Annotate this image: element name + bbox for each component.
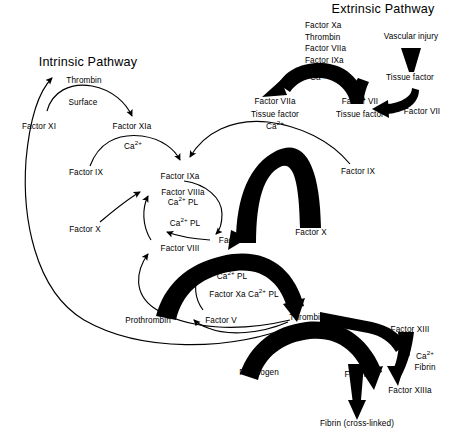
label-calcium-1: Ca2+	[124, 142, 142, 153]
thick-arrow-vascular-injury-to-tissue-factor	[401, 48, 421, 72]
node-tissue-factor-2: Tissue factor	[336, 110, 384, 121]
node-factor-ix-left: Factor IX	[69, 168, 103, 179]
node-vascular-injury: Vascular injury	[384, 32, 439, 43]
node-prothrombin: Prothrombin	[125, 316, 171, 327]
activator-thrombin: Thrombin	[305, 32, 346, 44]
node-factor-viii: Factor VIII	[161, 244, 200, 255]
arrow-factorxa-to-factorviii	[167, 232, 210, 240]
node-factor-x-right: Factor X	[295, 228, 327, 239]
activator-list: Factor Xa Thrombin Factor VIIa Factor IX…	[305, 20, 346, 66]
label-factor-xa-calcium-pl: Factor Xa Ca2+ PL	[209, 290, 278, 301]
node-factor-xa: Factor Xa	[219, 236, 255, 247]
label-calcium-4: Ca2+	[416, 352, 434, 363]
node-thrombin-top: Thrombin	[66, 76, 101, 87]
node-factor-xiiia: Factor XIIIa	[388, 386, 432, 397]
intrinsic-pathway-title: Intrinsic Pathway	[39, 57, 138, 68]
label-calcium-3: Ca2+	[266, 122, 284, 133]
node-factor-xiii: Factor XIII	[391, 325, 430, 336]
label-calcium-2: Ca2+	[310, 73, 328, 84]
node-factor-ixa: Factor IXa	[161, 172, 200, 183]
node-factor-vii-right: Factor VII	[404, 107, 441, 118]
activator-factor-ixa: Factor IXa	[305, 55, 346, 67]
node-fibrinogen: Fibrinogen	[239, 368, 279, 379]
node-tissue-factor-1: Tissue factor	[386, 73, 434, 84]
node-fibrin-crosslinked: Fibrin (cross-linked)	[320, 419, 394, 430]
arrow-factorviii-to-factorviiia	[144, 196, 151, 240]
node-fibrin-cofactor: Fibrin	[414, 363, 435, 374]
activator-factor-viia: Factor VIIa	[305, 43, 346, 55]
arrowhead-fibrin-crosslinked	[348, 400, 366, 420]
node-fibrin: Fibrin	[344, 370, 365, 381]
node-tissue-factor-3: Tissue factor	[251, 110, 299, 121]
node-factor-x-left: Factor X	[69, 225, 101, 236]
node-factor-viia: Factor VIIa	[254, 97, 295, 108]
label-calcium-pl-2: Ca2+ PL	[170, 219, 201, 230]
label-calcium-pl-3: Ca2+ PL	[217, 272, 248, 283]
node-factor-xi: Factor XI	[22, 122, 56, 133]
extrinsic-pathway-title: Extrinsic Pathway	[332, 4, 435, 15]
node-factor-vii-mid: Factor VII	[342, 97, 379, 108]
label-surface: Surface	[69, 98, 98, 109]
label-calcium-pl-1: Ca2+ PL	[168, 198, 199, 209]
node-factor-xia: Factor XIa	[113, 122, 152, 133]
node-factor-ix-right: Factor IX	[341, 167, 375, 178]
node-factor-v: Factor V	[205, 316, 237, 327]
arrowhead-factorxiiia	[387, 366, 404, 386]
coagulation-cascade-diagram: Intrinsic Pathway Extrinsic Pathway Thro…	[0, 0, 461, 438]
activator-factor-xa: Factor Xa	[305, 20, 346, 32]
node-thrombin-bottom: Thrombin	[289, 313, 324, 324]
arrow-factorx-to-complex	[100, 192, 140, 222]
